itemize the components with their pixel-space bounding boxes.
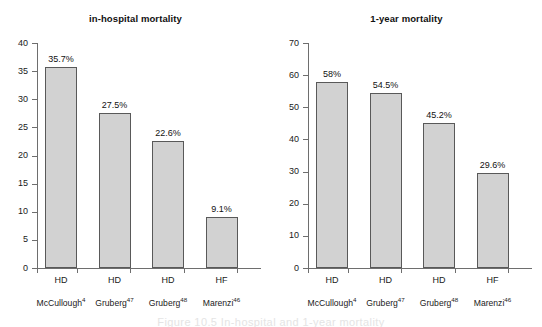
y-tick-mark [32, 184, 37, 185]
y-tick: 25 [32, 127, 37, 128]
bar [99, 113, 131, 268]
y-tick-mark [303, 172, 308, 173]
chart-title-in-hospital: in-hospital mortality [0, 13, 271, 24]
chart-title-one-year: 1-year mortality [271, 13, 542, 24]
y-tick-mark [32, 127, 37, 128]
panel-one-year-mortality: 1-year mortality 01020304050607058%54.5%… [271, 0, 542, 327]
y-tick-mark [32, 71, 37, 72]
x-modality-label: HF [194, 274, 250, 286]
y-tick-label: 15 [18, 177, 28, 189]
x-tick-mark [455, 268, 456, 273]
y-tick-label: 30 [18, 93, 28, 105]
bar-value-label: 45.2% [411, 110, 467, 121]
y-tick-label: 20 [18, 149, 28, 161]
y-tick-label: 0 [294, 262, 299, 274]
y-tick: 30 [303, 172, 308, 173]
y-tick-mark [32, 156, 37, 157]
x-modality-label: HF [465, 274, 521, 286]
bar [152, 141, 184, 268]
x-axis-line-in-hospital [37, 268, 261, 269]
x-tick-mark [237, 268, 238, 273]
x-modality-label: HD [304, 274, 360, 286]
y-tick-mark [303, 43, 308, 44]
y-tick-mark [303, 139, 308, 140]
y-tick-label: 40 [18, 37, 28, 49]
figure-two-bar-charts: in-hospital mortality 051015202530354035… [0, 0, 542, 327]
panel-in-hospital-mortality: in-hospital mortality 051015202530354035… [0, 0, 271, 327]
x-tick-mark [77, 268, 78, 273]
bar [316, 82, 348, 268]
y-tick: 10 [32, 212, 37, 213]
y-tick-mark [32, 212, 37, 213]
bar-value-label: 29.6% [465, 160, 521, 171]
x-tick-mark [508, 268, 509, 273]
x-modality-label: HD [358, 274, 414, 286]
x-tick-mark [184, 268, 185, 273]
x-tick-mark [308, 268, 309, 273]
x-tick-mark [130, 268, 131, 273]
bar-value-label: 35.7% [33, 54, 89, 65]
y-tick-label: 0 [23, 262, 28, 274]
y-tick: 20 [32, 156, 37, 157]
y-tick-mark [32, 43, 37, 44]
bar [206, 217, 238, 268]
x-tick-mark [401, 268, 402, 273]
x-study-label: Marenzi46 [188, 297, 256, 309]
y-tick: 10 [303, 236, 308, 237]
bar-value-label: 54.5% [358, 80, 414, 91]
y-tick-label: 30 [289, 165, 299, 177]
bar-value-label: 9.1% [194, 204, 250, 215]
y-tick-label: 5 [23, 233, 28, 245]
y-tick-label: 50 [289, 101, 299, 113]
x-modality-label: HD [33, 274, 89, 286]
y-tick-mark [32, 99, 37, 100]
bar [423, 123, 455, 268]
y-tick-label: 20 [289, 197, 299, 209]
y-tick-label: 60 [289, 69, 299, 81]
bar-value-label: 58% [304, 69, 360, 80]
y-tick-label: 10 [289, 229, 299, 241]
x-tick-mark [37, 268, 38, 273]
y-tick: 70 [303, 43, 308, 44]
bar [477, 173, 509, 268]
y-tick-label: 40 [289, 133, 299, 145]
y-tick: 40 [303, 139, 308, 140]
y-tick-mark [32, 240, 37, 241]
figure-caption-cutoff: Figure 10.5 In-hospital and 1-year morta… [0, 316, 542, 327]
bar [45, 67, 77, 268]
x-axis-line-one-year [308, 268, 532, 269]
y-tick: 35 [32, 71, 37, 72]
y-tick-label: 70 [289, 37, 299, 49]
y-tick: 40 [32, 43, 37, 44]
plot-area-in-hospital: 051015202530354035.7%27.5%22.6%9.1% [45, 43, 258, 268]
y-tick-mark [303, 107, 308, 108]
bar-value-label: 22.6% [140, 128, 196, 139]
y-tick: 30 [32, 99, 37, 100]
y-tick-mark [303, 204, 308, 205]
y-tick: 15 [32, 184, 37, 185]
plot-area-one-year: 01020304050607058%54.5%45.2%29.6% [316, 43, 529, 268]
y-tick: 20 [303, 204, 308, 205]
x-study-label: Marenzi46 [459, 297, 527, 309]
y-tick-label: 35 [18, 65, 28, 77]
y-tick-mark [303, 236, 308, 237]
y-axis-line-in-hospital [37, 43, 38, 269]
y-tick-label: 10 [18, 205, 28, 217]
y-tick: 5 [32, 240, 37, 241]
x-modality-label: HD [411, 274, 467, 286]
x-tick-mark [348, 268, 349, 273]
x-modality-label: HD [140, 274, 196, 286]
bar [370, 93, 402, 268]
y-tick-label: 25 [18, 121, 28, 133]
bar-value-label: 27.5% [87, 100, 143, 111]
y-tick: 50 [303, 107, 308, 108]
x-modality-label: HD [87, 274, 143, 286]
